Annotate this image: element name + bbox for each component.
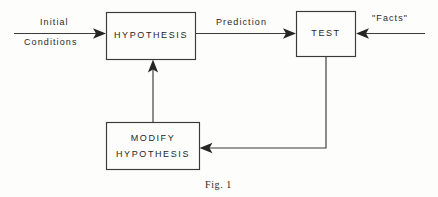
modify-hypothesis-box <box>107 123 200 170</box>
modify-hypothesis-label-line1: MODIFY <box>106 134 200 143</box>
modify-hypothesis-label-line2: HYPOTHESIS <box>106 150 200 159</box>
edge-test-to-modify-line <box>205 57 326 148</box>
hypothesis-label: HYPOTHESIS <box>106 31 196 40</box>
test-label: TEST <box>296 29 356 38</box>
diagram-linework <box>0 0 438 197</box>
edge-label-initial: Initial <box>40 18 69 27</box>
scientific-method-flowchart: HYPOTHESIS TEST MODIFY HYPOTHESIS Initia… <box>0 0 438 197</box>
edge-label-facts: "Facts" <box>372 14 408 23</box>
figure-caption: Fig. 1 <box>205 180 232 190</box>
edge-label-conditions: Conditions <box>24 38 78 47</box>
edge-label-prediction: Prediction <box>216 18 267 27</box>
